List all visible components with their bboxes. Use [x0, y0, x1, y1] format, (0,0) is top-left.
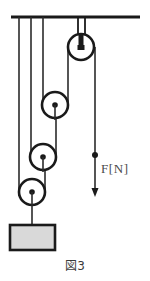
force-application-dot — [92, 152, 98, 158]
force-arrowhead-icon — [92, 188, 99, 197]
weight-block — [10, 225, 55, 250]
fixed-pulley-hub-icon — [78, 45, 85, 50]
figure-caption: 図3 — [0, 256, 150, 273]
pulley-system-svg — [0, 0, 150, 281]
force-label: F[N] — [101, 161, 129, 177]
pulley-figure: F[N] 図3 — [0, 0, 150, 281]
